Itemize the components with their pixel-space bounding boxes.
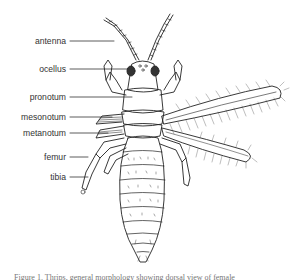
insect-diagram: antenna ocellus pronotum mesonotum metan… (0, 0, 306, 280)
label-tibia: tibia (50, 172, 66, 182)
left-wing-bases (96, 114, 124, 138)
abdomen-segments (120, 151, 165, 253)
antennae (104, 14, 173, 60)
head (128, 61, 158, 92)
fore-legs (104, 60, 182, 95)
abdomen-setae (128, 157, 158, 261)
label-metanotum: metanotum (23, 128, 66, 138)
right-fore-wing (162, 80, 289, 134)
figure-caption: Figure 1. Thrips, general morphology sho… (14, 271, 304, 280)
label-femur: femur (44, 152, 66, 162)
ocelli (139, 65, 147, 71)
label-pronotum: pronotum (30, 92, 66, 102)
right-hind-wing (162, 128, 257, 168)
label-antenna: antenna (35, 36, 66, 46)
mid-hind-legs (81, 138, 190, 194)
label-mesonotum: mesonotum (21, 112, 66, 122)
label-ocellus: ocellus (39, 64, 66, 74)
